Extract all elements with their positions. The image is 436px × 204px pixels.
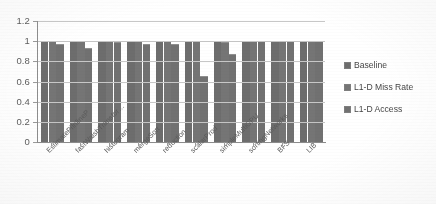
x-axis-tick-label: scalarProd xyxy=(189,124,219,154)
x-axis-tick-mark xyxy=(195,142,196,146)
chart-legend: BaselineL1-D Miss RateL1-D Access xyxy=(344,60,436,126)
x-axis-tick-label: reduction xyxy=(161,128,188,155)
legend-swatch-icon xyxy=(344,84,351,91)
x-axis-tick-mark xyxy=(51,142,52,146)
legend-item-label: Baseline xyxy=(354,61,387,70)
x-axis-tick-mark xyxy=(311,142,312,146)
x-axis-tick-label: mergeSort xyxy=(132,125,161,154)
x-axis-tick-label: histogram xyxy=(103,126,131,154)
legend-item[interactable]: L1-D Access xyxy=(344,104,436,114)
legend-swatch-icon xyxy=(344,106,351,113)
x-axis-tick-mark xyxy=(138,142,139,146)
x-axis-tick-mark xyxy=(253,142,254,146)
legend-swatch-icon xyxy=(344,62,351,69)
x-axis-tick-mark xyxy=(109,142,110,146)
x-axis-tick-mark xyxy=(224,142,225,146)
legend-item[interactable]: L1-D Miss Rate xyxy=(344,82,436,92)
bar-chart: 1.210.80.60.40.20 EstimatePiInlinePfastW… xyxy=(0,0,436,204)
x-axis-tick-mark xyxy=(167,142,168,146)
legend-item-label: L1-D Access xyxy=(354,105,402,114)
x-axis-tick-mark xyxy=(80,142,81,146)
legend-item[interactable]: Baseline xyxy=(344,60,436,70)
legend-item-label: L1-D Miss Rate xyxy=(354,83,413,92)
x-axis-tick-mark xyxy=(282,142,283,146)
x-axis-tick-label: BFS xyxy=(276,139,291,154)
